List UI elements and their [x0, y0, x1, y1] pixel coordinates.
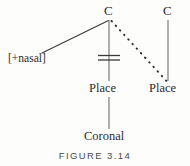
node-coronal: Coronal	[84, 130, 124, 143]
node-c-right: C	[163, 4, 172, 17]
edge-c-left-to-place-right-dotted	[112, 21, 167, 81]
figure-caption: FIGURE 3.14	[0, 150, 190, 161]
edge-nasal-to-c-left	[42, 21, 109, 54]
figure-container: C C [+nasal] Place Place Coronal FIGURE …	[0, 0, 190, 166]
feature-nasal-label: [+nasal]	[8, 53, 46, 65]
node-place-left: Place	[89, 82, 116, 95]
node-c-left: C	[104, 4, 113, 17]
node-place-right: Place	[149, 82, 176, 95]
